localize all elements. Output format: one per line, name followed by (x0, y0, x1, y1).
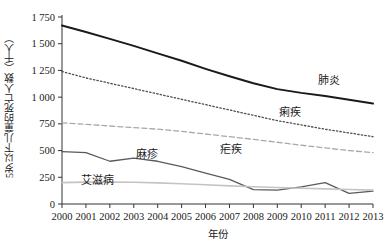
y-axis-ticks: 02505007501 0001 2501 5001 750 (31, 12, 62, 210)
x-tick-label: 2002 (99, 211, 120, 222)
series-inline-labels: 肺炎痢疾疟疾麻疹艾滋病 (81, 74, 339, 185)
x-tick-label: 2010 (291, 211, 312, 222)
x-tick-label: 2009 (267, 211, 288, 222)
x-tick-label: 2012 (339, 211, 360, 222)
series-label-疟疾: 疟疾 (220, 142, 242, 155)
x-tick-label: 2008 (243, 211, 264, 222)
series-label-麻疹: 麻疹 (136, 147, 158, 160)
x-tick-label: 2003 (123, 211, 144, 222)
y-tick-label: 1 500 (31, 38, 55, 49)
line-chart-svg: 02505007501 0001 2501 5001 750 200020012… (0, 0, 389, 249)
x-axis-title: 年份 (208, 228, 229, 240)
x-tick-label: 2011 (315, 211, 336, 222)
series-line-疟疾 (62, 123, 373, 153)
series-label-艾滋病: 艾滋病 (81, 173, 114, 186)
series-lines (62, 26, 373, 194)
x-tick-label: 2004 (147, 211, 169, 222)
x-tick-label: 2005 (171, 211, 192, 222)
y-tick-label: 1 750 (31, 12, 55, 23)
x-tick-label: 2007 (219, 211, 240, 222)
x-tick-label: 2000 (52, 211, 73, 222)
series-line-麻疹 (62, 152, 373, 194)
y-tick-label: 0 (50, 199, 55, 210)
y-tick-label: 1 250 (31, 65, 55, 76)
x-tick-label: 2013 (363, 211, 384, 222)
x-tick-label: 2006 (195, 211, 216, 222)
series-label-痢疾: 痢疾 (279, 105, 301, 118)
chart-container: 5岁以下儿童的死亡人数（千人） 02505007501 0001 2501 50… (0, 0, 389, 249)
series-line-肺炎 (62, 26, 373, 104)
y-tick-label: 250 (39, 172, 55, 183)
y-tick-label: 1 000 (31, 92, 55, 103)
x-axis-ticks: 2000200120022003200420052006200720082009… (52, 204, 384, 222)
series-label-肺炎: 肺炎 (318, 74, 340, 86)
x-tick-label: 2001 (75, 211, 96, 222)
y-tick-label: 500 (39, 145, 55, 156)
y-tick-label: 750 (39, 118, 55, 129)
